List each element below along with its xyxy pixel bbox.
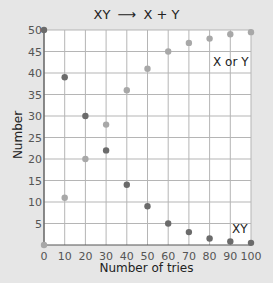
- data-point: [165, 48, 171, 54]
- data-point: [82, 156, 88, 162]
- data-point: [124, 182, 130, 188]
- data-point: [103, 121, 109, 127]
- svg-text:45: 45: [28, 46, 42, 59]
- legend-xy: XY: [232, 222, 248, 236]
- data-point: [41, 27, 47, 33]
- svg-text:5: 5: [35, 218, 42, 231]
- svg-text:25: 25: [28, 132, 42, 145]
- svg-text:50: 50: [28, 24, 42, 37]
- svg-text:30: 30: [28, 110, 42, 123]
- y-tick-labels: 5101520253035404550: [28, 24, 42, 231]
- y-axis-label: Number: [11, 105, 25, 165]
- data-point: [61, 74, 67, 80]
- data-point: [186, 40, 192, 46]
- data-point: [124, 87, 130, 93]
- data-point: [144, 66, 150, 72]
- x-axis-label: Number of tries: [0, 261, 273, 275]
- data-point: [227, 238, 233, 244]
- data-point: [61, 195, 67, 201]
- svg-text:35: 35: [28, 89, 42, 102]
- svg-text:40: 40: [28, 67, 42, 80]
- data-point: [144, 203, 150, 209]
- data-point: [206, 235, 212, 241]
- svg-text:15: 15: [28, 175, 42, 188]
- data-point: [186, 229, 192, 235]
- data-point: [248, 29, 254, 35]
- data-point: [103, 147, 109, 153]
- data-point: [165, 220, 171, 226]
- data-point: [206, 35, 212, 41]
- svg-text:20: 20: [28, 153, 42, 166]
- data-point: [248, 240, 254, 246]
- data-point: [41, 242, 47, 248]
- data-point: [227, 31, 233, 37]
- scatter-plot: 0102030405060708090100 51015202530354045…: [0, 0, 273, 283]
- svg-text:10: 10: [28, 196, 42, 209]
- legend-x-or-y: X or Y: [213, 55, 248, 69]
- data-point: [82, 113, 88, 119]
